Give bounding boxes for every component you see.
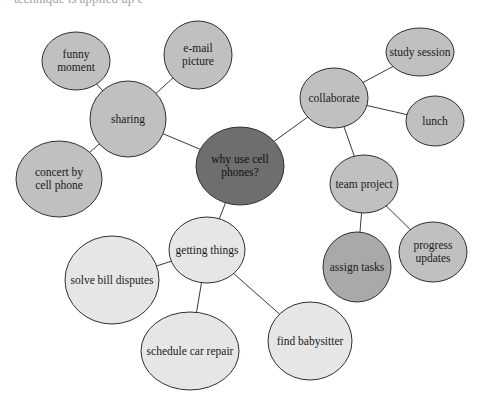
node-find-babysitter: [268, 302, 352, 380]
node-sharing: [90, 81, 166, 157]
node-concert: [16, 141, 102, 217]
node-collaborate: [300, 68, 368, 128]
node-lunch: [406, 96, 464, 146]
node-funny-moment: [42, 32, 110, 90]
node-schedule-car-repair: [141, 312, 239, 390]
node-assign-tasks: [323, 232, 391, 302]
node-solve-bill-disputes: [65, 236, 159, 324]
mind-map: [0, 0, 484, 400]
node-team-project: [330, 155, 398, 213]
node-center: [196, 127, 284, 205]
node-progress-updates: [399, 222, 467, 282]
mind-map-nodes: [16, 21, 467, 390]
node-getting-things: [169, 217, 245, 283]
node-study-session: [386, 28, 454, 76]
node-email-picture: [164, 21, 232, 89]
